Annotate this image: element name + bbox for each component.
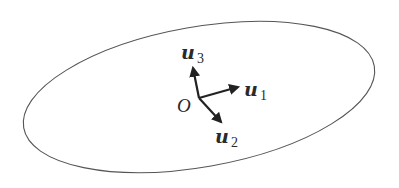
u1-name: u <box>244 78 258 100</box>
diagram-canvas: O u 1 u 2 u 3 <box>0 0 399 188</box>
origin-label: O <box>177 95 191 116</box>
u3-name: u <box>181 41 195 63</box>
coordinate-frame <box>193 68 238 122</box>
u3-subscript: 3 <box>197 51 204 66</box>
u2-name: u <box>215 125 229 147</box>
u1-subscript: 1 <box>260 88 267 103</box>
u3-arrow <box>193 68 199 98</box>
u2-arrow <box>199 98 221 122</box>
u1-arrow <box>199 87 238 98</box>
label-u3: u 3 <box>181 41 204 66</box>
label-u2: u 2 <box>215 125 238 150</box>
u2-subscript: 2 <box>231 135 238 150</box>
label-u1: u 1 <box>244 78 267 103</box>
